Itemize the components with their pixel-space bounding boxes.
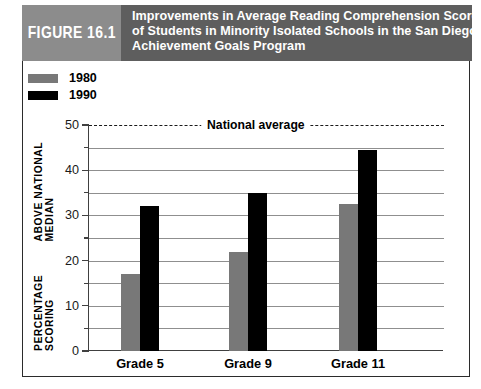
chart-plot-area: 01020304050National average [88, 125, 443, 351]
bar [339, 204, 358, 351]
bar [358, 150, 377, 351]
y-axis-tick-label: 50 [65, 118, 79, 132]
legend-item-label: 1980 [69, 72, 97, 85]
figure-number-box: FIGURE 16.1 [22, 5, 121, 61]
y-axis-tick-label: 30 [65, 208, 79, 222]
figure-title: Improvements in Average Reading Comprehe… [121, 5, 481, 61]
figure-header-band: FIGURE 16.1 Improvements in Average Read… [22, 5, 472, 61]
x-axis-labels: Grade 5Grade 9Grade 11 [88, 356, 443, 376]
figure-title-line-3: Achievement Goals Program [132, 39, 481, 54]
x-axis-category-label: Grade 11 [331, 356, 385, 371]
figure-container: FIGURE 16.1 Improvements in Average Read… [0, 0, 481, 389]
y-axis-title: PERCENTAGE SCORING ABOVE NATIONAL MEDIAN [26, 125, 62, 351]
y-axis-tick-label: 0 [72, 344, 79, 358]
bar [229, 252, 248, 351]
y-axis-tick-label: 40 [65, 163, 79, 177]
legend-item-label: 1990 [69, 89, 97, 102]
x-axis-category-label: Grade 9 [224, 356, 272, 371]
legend-item: 1980 [28, 72, 148, 85]
legend-item: 1990 [28, 89, 148, 102]
bar [140, 206, 159, 351]
figure-title-line-1: Improvements in Average Reading Comprehe… [132, 9, 481, 24]
gray-swatch-icon [28, 74, 58, 83]
black-swatch-icon [28, 91, 58, 100]
x-axis-category-label: Grade 5 [116, 356, 164, 371]
bars-layer [88, 125, 443, 351]
y-axis-tick-label: 20 [65, 254, 79, 268]
bar [121, 274, 140, 351]
figure-title-line-2: of Students in Minority Isolated Schools… [132, 24, 481, 39]
y-axis-title-line-1: PERCENTAGE SCORING [33, 247, 55, 351]
y-axis-title-line-2: ABOVE NATIONAL MEDIAN [33, 125, 55, 242]
y-axis-tick-label: 10 [65, 299, 79, 313]
chart-legend: 1980 1990 [28, 72, 148, 106]
bar [248, 193, 267, 351]
figure-number-label: FIGURE 16.1 [27, 23, 115, 43]
